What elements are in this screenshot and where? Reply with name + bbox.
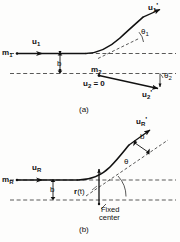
- label-mass-m1: m1: [2, 49, 12, 57]
- figure-root: m1 u1 u1' θ1 b m2 u2 = 0 u2' θ2 (a) mR u…: [0, 0, 180, 242]
- label-velocity-u2-zero: u2 = 0: [83, 80, 105, 88]
- label-angle-theta-panel-b: θ: [124, 158, 128, 166]
- panel-a-theta2-marker: [160, 74, 163, 88]
- label-velocity-u1-prime: u1': [148, 4, 158, 12]
- label-velocity-u1: u1: [32, 38, 40, 46]
- label-impact-parameter-b-upper-panel-b: b: [140, 133, 144, 141]
- panel-b-incoming-trajectory: [16, 177, 78, 182]
- label-velocity-uR-prime: uR': [136, 118, 147, 126]
- label-impact-parameter-b-panel-b: b: [50, 186, 54, 194]
- caption-panel-b: (b): [79, 226, 89, 234]
- label-impact-parameter-b-panel-a: b: [57, 60, 61, 68]
- label-mass-m2: m2: [91, 66, 101, 74]
- label-velocity-u2-prime: u2': [142, 91, 152, 99]
- label-angle-theta1: θ1: [141, 28, 149, 36]
- label-angle-theta2: θ2: [164, 72, 172, 80]
- caption-panel-a: (a): [79, 106, 89, 114]
- figure-drawing: [0, 0, 180, 242]
- label-mass-mR: mR: [2, 176, 13, 184]
- panel-b-impact-parameter-upper-marker: [133, 140, 150, 154]
- panel-b-theta-arc: [118, 176, 126, 197]
- label-fixed-center-line2: center: [99, 214, 120, 222]
- panel-a-recoil-trajectory-m2: [98, 74, 158, 88]
- label-velocity-uR: uR: [32, 164, 41, 172]
- panel-a-incoming-trajectory-m1: [16, 51, 86, 56]
- label-position-vector-r-of-t: r(t): [74, 188, 85, 196]
